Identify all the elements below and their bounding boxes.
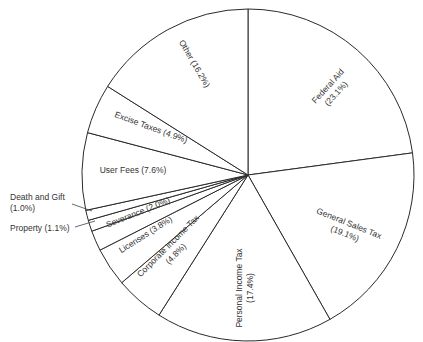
label-user-fees: User Fees (7.6%) <box>100 165 167 175</box>
revenue-pie-chart: Federal Aid(23.1%)General Sales Tax(19.1… <box>0 0 423 342</box>
label-death-and-gift: Death and Gift(1.0%) <box>10 192 65 213</box>
label-property: Property (1.1%) <box>10 223 70 233</box>
